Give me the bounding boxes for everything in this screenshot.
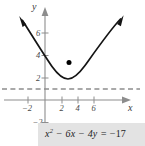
y-axis-arrow: [42, 7, 49, 16]
parabola-figure: y x −2 2 4 6 6 4 2 −2 x2 − 6x − 4y = −17: [0, 0, 145, 146]
x-tick-label-2: 2: [60, 104, 64, 113]
y-axis-label: y: [32, 2, 36, 12]
parabola-curve: [19, 15, 123, 79]
y-tick-label-4: 4: [36, 51, 40, 60]
focus-point: [67, 60, 72, 65]
x-tick-label-neg2: −2: [22, 104, 32, 113]
x-axis-label: x: [128, 103, 132, 113]
equation-caption: x2 − 6x − 4y = −17: [45, 127, 126, 139]
x-tick-label-4: 4: [76, 104, 80, 113]
y-tick-label-2: 2: [36, 74, 40, 83]
x-tick-label-6: 6: [92, 104, 96, 113]
equation-rhs: −17: [110, 128, 126, 139]
y-tick-label-6: 6: [36, 29, 40, 38]
equation-middle: − 6x − 4y =: [53, 128, 110, 139]
